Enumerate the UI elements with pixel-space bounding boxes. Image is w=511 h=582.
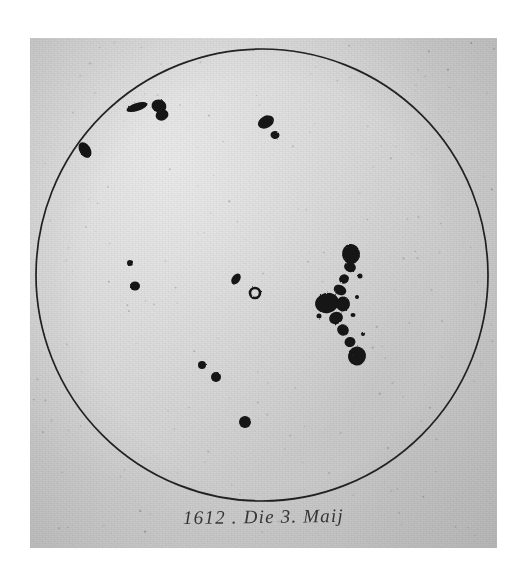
paper-speck (385, 357, 387, 359)
paper-speck (473, 380, 475, 382)
paper-speck (408, 322, 410, 324)
paper-speck (315, 66, 316, 67)
paper-speck (314, 123, 315, 124)
paper-speck (42, 431, 44, 433)
paper-speck (324, 428, 325, 429)
paper-speck (208, 115, 210, 117)
paper-speck (193, 350, 195, 352)
paper-speck (95, 39, 96, 40)
paper-speck (448, 87, 450, 89)
paper-speck (325, 529, 326, 530)
paper-speck (443, 476, 444, 477)
paper-speck (477, 281, 478, 282)
paper-speck (455, 526, 457, 528)
paper-speck (153, 303, 155, 305)
paper-speck (79, 75, 81, 77)
paper-speck (483, 78, 484, 79)
paper-speck (346, 247, 348, 249)
paper-speck (424, 75, 426, 77)
paper-speck (89, 63, 91, 65)
paper-speck (436, 439, 438, 441)
paper-speck (437, 145, 438, 146)
paper-speck (435, 471, 436, 472)
paper-speck (475, 304, 476, 305)
paper-speck (244, 263, 245, 264)
paper-speck (68, 430, 69, 431)
paper-speck (109, 64, 111, 66)
paper-speck (394, 289, 396, 291)
paper-speck (146, 80, 148, 82)
sunspot-spot-upper-east-large (256, 113, 277, 132)
paper-speck (440, 223, 442, 225)
paper-speck (33, 399, 35, 401)
paper-speck (390, 157, 392, 159)
paper-speck (304, 426, 305, 427)
paper-speck (387, 447, 389, 449)
paper-speck (348, 45, 350, 47)
paper-speck (448, 131, 449, 132)
paper-speck (379, 393, 381, 395)
paper-speck (322, 281, 324, 283)
sunspot-spot-lower-mid (211, 372, 221, 382)
sunspot-complex-speck-d (361, 332, 365, 336)
paper-speck (486, 92, 488, 94)
paper-speck (470, 42, 472, 44)
paper-speck (231, 484, 233, 486)
paper-speck (443, 131, 444, 132)
paper-speck (156, 94, 158, 96)
paper-speck (491, 324, 492, 325)
paper-speck (426, 169, 427, 170)
paper-speck (488, 490, 490, 492)
paper-speck (256, 379, 257, 380)
paper-speck (113, 42, 114, 43)
paper-speck (483, 176, 484, 177)
paper-speck (88, 198, 89, 199)
paper-speck (449, 266, 450, 267)
paper-speck (305, 209, 307, 211)
paper-speck (302, 462, 304, 464)
paper-speck (140, 47, 141, 48)
paper-speck (94, 92, 96, 94)
solar-disc-drawing (30, 38, 497, 548)
paper-speck (407, 218, 409, 220)
paper-speck (397, 488, 399, 490)
paper-speck (34, 73, 35, 74)
paper-speck (367, 125, 369, 127)
paper-speck (145, 300, 147, 302)
paper-speck (99, 47, 101, 49)
paper-speck (36, 388, 37, 389)
paper-speck (237, 220, 239, 222)
paper-speck (176, 303, 177, 304)
paper-speck (85, 226, 87, 228)
paper-speck (62, 347, 63, 348)
paper-speck (210, 212, 211, 213)
paper-speck (239, 494, 241, 496)
sunspot-complex-speck-b (355, 295, 359, 299)
paper-speck (367, 358, 368, 359)
paper-speck (382, 345, 384, 347)
paper-speck (119, 476, 121, 478)
solar-disc-outline (36, 49, 488, 501)
paper-speck (257, 371, 259, 373)
paper-speck (256, 95, 257, 96)
paper-speck (338, 104, 339, 105)
sunspot-spot-lower-left (198, 361, 206, 369)
sunspot-complex-node-1 (337, 273, 350, 286)
paper-speck (108, 281, 110, 283)
paper-speck (102, 455, 103, 456)
paper-speck (328, 472, 330, 474)
paper-speck (298, 209, 299, 210)
paper-speck (67, 247, 69, 249)
paper-speck (259, 105, 260, 106)
paper-speck (95, 231, 96, 232)
paper-speck (261, 531, 263, 533)
sunspot-spot-center-left (130, 282, 140, 291)
paper-speck (213, 175, 214, 176)
paper-speck (44, 163, 46, 165)
screenshot-root: 1612 . Die 3. Maij (0, 0, 511, 582)
paper-speck (424, 384, 425, 385)
paper-speck (128, 310, 130, 312)
paper-speck (129, 369, 130, 370)
paper-specks (33, 39, 495, 536)
sunspot-complex-speck-c (351, 313, 356, 317)
